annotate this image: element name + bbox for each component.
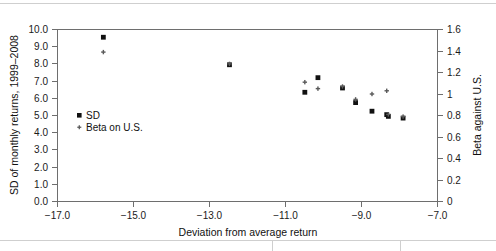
- x-ticklabel-4: −9.0: [352, 210, 372, 221]
- y2-ticklabel-5: 1: [447, 89, 453, 100]
- y-ticklabel-9: 9.0: [34, 41, 48, 52]
- data-point-beta: [303, 80, 307, 84]
- scatter-chart: 0.0 1.0 2.0 3.0 4.0 5.0 6.0 7.0 8.0 9.0 …: [0, 0, 496, 240]
- data-point-beta: [316, 86, 320, 90]
- y-ticklabel-2: 2.0: [34, 162, 48, 173]
- y-ticklabel-8: 8.0: [34, 58, 48, 69]
- y2-ticklabel-8: 1.6: [447, 24, 461, 35]
- y2-ticklabel-4: 0.8: [447, 110, 461, 121]
- y2-ticklabel-2: 0.4: [447, 153, 461, 164]
- y-axis-title: SD of monthly returns, 1999–2008: [8, 35, 20, 195]
- legend: SD Beta on U.S.: [77, 110, 143, 134]
- legend-marker-beta: [77, 125, 81, 129]
- data-point-beta: [385, 89, 389, 93]
- y2-ticklabel-0: 0: [447, 196, 453, 207]
- y-ticklabel-1: 1.0: [34, 179, 48, 190]
- data-point-sd: [370, 109, 375, 114]
- figure-container: 0.0 1.0 2.0 3.0 4.0 5.0 6.0 7.0 8.0 9.0 …: [0, 0, 496, 251]
- data-point-beta: [101, 50, 105, 54]
- bottom-divider-tick-right: [400, 241, 401, 251]
- x-ticklabel-2: −13.0: [197, 210, 223, 221]
- y2-ticklabel-3: 0.6: [447, 132, 461, 143]
- legend-label-beta: Beta on U.S.: [86, 122, 143, 133]
- y2-ticklabel-7: 1.4: [447, 46, 461, 57]
- bottom-divider: [0, 240, 496, 241]
- y-ticklabel-0: 0.0: [34, 196, 48, 207]
- legend-marker-sd: [77, 113, 82, 118]
- x-ticklabel-1: −15.0: [121, 210, 147, 221]
- data-point-sd: [316, 75, 321, 80]
- x-ticklabel-5: −7.0: [428, 210, 448, 221]
- y-ticklabel-4: 4.0: [34, 127, 48, 138]
- data-point-beta: [370, 92, 374, 96]
- legend-label-sd: SD: [86, 110, 100, 121]
- data-markers: [101, 35, 406, 121]
- y2-ticklabel-1: 0.2: [447, 175, 461, 186]
- bottom-divider-tick-left: [272, 241, 273, 251]
- y2-ticklabel-6: 1.2: [447, 67, 461, 78]
- x-axis: −17.0 −15.0 −13.0 −11.0 −9.0 −7.0: [45, 202, 448, 221]
- x-ticklabel-0: −17.0: [45, 210, 71, 221]
- y-axis-right: 0 0.2 0.4 0.6 0.8 1 1.2 1.4 1.6: [438, 24, 461, 207]
- y-ticklabel-5: 5.0: [34, 110, 48, 121]
- y-ticklabel-3: 3.0: [34, 144, 48, 155]
- y-ticklabel-6: 6.0: [34, 93, 48, 104]
- x-ticklabel-3: −11.0: [273, 210, 298, 221]
- y-ticklabel-7: 7.0: [34, 76, 48, 87]
- y-axis-left: 0.0 1.0 2.0 3.0 4.0 5.0 6.0 7.0 8.0 9.0 …: [29, 24, 57, 207]
- data-point-sd: [101, 35, 106, 40]
- y-ticklabel-10: 10.0: [29, 24, 49, 35]
- data-point-sd: [302, 90, 307, 95]
- x-axis-title: Deviation from average return: [179, 226, 318, 238]
- y2-axis-title: Beta against U.S.: [471, 74, 483, 156]
